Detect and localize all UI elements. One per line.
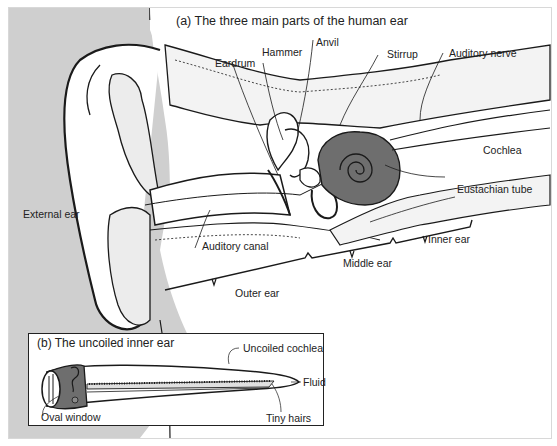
label-anvil: Anvil xyxy=(316,36,339,48)
label-auditory-nerve: Auditory nerve xyxy=(449,47,517,59)
label-auditory-canal: Auditory canal xyxy=(202,240,269,252)
label-external-ear: External ear xyxy=(23,208,80,220)
label-middle-ear: Middle ear xyxy=(343,257,392,269)
label-eardrum: Eardrum xyxy=(215,57,255,69)
label-oval-window: Oval window xyxy=(41,411,101,423)
label-hammer: Hammer xyxy=(262,46,302,58)
label-fluid: Fluid xyxy=(303,376,326,388)
label-stirrup: Stirrup xyxy=(387,48,418,60)
label-uncoiled-cochlea: Uncoiled cochlea xyxy=(243,342,323,354)
label-cochlea: Cochlea xyxy=(483,144,522,156)
label-eustachian-tube: Eustachian tube xyxy=(457,183,532,195)
label-tiny-hairs: Tiny hairs xyxy=(266,412,311,424)
panel-b-inset: (b) The uncoiled inner ear Uncoiled coch… xyxy=(28,333,324,426)
panel-a-title: (a) The three main parts of the human ea… xyxy=(176,15,408,27)
figure-page: (a) The three main parts of the human ea… xyxy=(0,0,557,446)
label-outer-ear: Outer ear xyxy=(235,287,279,299)
label-inner-ear: Inner ear xyxy=(428,233,470,245)
panel-b-title: (b) The uncoiled inner ear xyxy=(37,337,174,349)
